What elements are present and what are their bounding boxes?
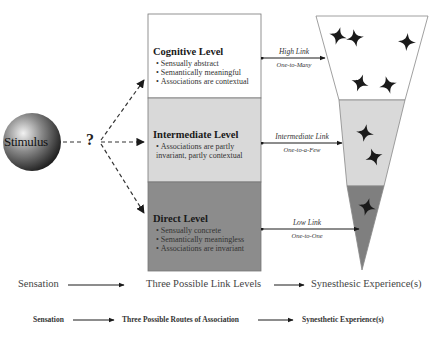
bullet: Associations are invariant	[156, 244, 261, 253]
direct-level-bullets: Sensually concrete Semantically meaningl…	[153, 226, 261, 253]
bullet: Associations are contextual	[156, 77, 261, 86]
caption2-experience: Synesthetic Experience(s)	[302, 315, 384, 324]
cognitive-level-title: Cognitive Level	[153, 46, 261, 58]
bullet: Semantically meaningless	[156, 235, 261, 244]
bullet: Sensually concrete	[156, 226, 261, 235]
intermediate-link-label: Intermediate Link	[262, 132, 342, 141]
bullet: Semantically meaningful	[156, 68, 261, 77]
bullet: Sensually abstract	[156, 59, 261, 68]
question-mark: ?	[86, 131, 94, 149]
caption2-sensation: Sensation	[33, 315, 64, 324]
intermediate-level-bullets: Associations are partly invariant, partl…	[153, 142, 258, 160]
bullet: Associations are partly invariant, partl…	[156, 142, 258, 160]
caption1-experience: Synesthesic Experience(s)	[311, 278, 422, 289]
high-link-label: High Link	[264, 47, 324, 56]
intermediate-level-title: Intermediate Level	[153, 129, 258, 141]
caption2-routes: Three Possible Routes of Association	[122, 315, 239, 324]
low-link-sublabel: One-to-One	[272, 232, 342, 239]
intermediate-link-sublabel: One-to-a-Few	[262, 146, 342, 153]
stimulus-label: Stimulus	[4, 134, 48, 150]
direct-level: Direct Level Sensually concrete Semantic…	[148, 213, 261, 253]
dashed-connectors	[63, 80, 144, 213]
caption1-link-levels: Three Possible Link Levels	[146, 278, 261, 289]
direct-level-title: Direct Level	[153, 213, 261, 225]
caption1-sensation: Sensation	[18, 278, 59, 289]
cognitive-level: Cognitive Level Sensually abstract Seman…	[148, 46, 261, 86]
cognitive-level-bullets: Sensually abstract Semantically meaningf…	[153, 59, 261, 86]
high-link-sublabel: One-to-Many	[264, 61, 324, 68]
intermediate-level: Intermediate Level Associations are part…	[148, 129, 258, 160]
low-link-label: Low Link	[272, 218, 342, 227]
